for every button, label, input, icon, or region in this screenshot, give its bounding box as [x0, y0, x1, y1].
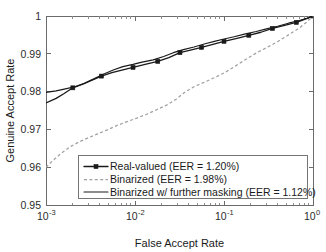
x-axis-title: False Accept Rate — [135, 237, 224, 249]
x-tick-exponent: -3 — [49, 208, 56, 217]
roc-chart-figure: 10-310-210-11000.950.960.970.980.991Fals… — [0, 0, 326, 252]
y-tick-label: 1 — [35, 10, 41, 22]
x-tick-base: 10 — [126, 210, 138, 222]
y-tick-label: 0.97 — [21, 123, 42, 135]
series-line-1 — [46, 16, 313, 167]
x-tick-label: 10-1 — [215, 208, 234, 222]
chart-canvas: 10-310-210-11000.950.960.970.980.991Fals… — [0, 0, 326, 252]
legend-label: Real-valued (EER = 1.20%) — [110, 160, 239, 172]
x-tick-label: 10-2 — [126, 208, 145, 222]
legend: Real-valued (EER = 1.20%)Binarized (EER … — [79, 156, 316, 199]
x-tick-exponent: -2 — [138, 208, 145, 217]
legend-label: Binarized w/ further masking (EER = 1.12… — [110, 186, 316, 198]
series-group — [46, 14, 315, 167]
x-tick-base: 10 — [215, 210, 227, 222]
legend-swatch-marker — [94, 165, 98, 169]
x-tick-label: 100 — [304, 208, 320, 222]
y-tick-label: 0.98 — [21, 85, 42, 97]
x-tick-base: 10 — [304, 210, 316, 222]
y-tick-label: 0.96 — [21, 161, 42, 173]
legend-label: Binarized (EER = 1.98%) — [110, 173, 227, 185]
series-marker-square — [200, 45, 204, 49]
series-marker-square — [131, 65, 135, 69]
series-marker-square — [156, 59, 160, 63]
y-tick-label: 0.95 — [21, 199, 42, 211]
x-tick-base: 10 — [37, 210, 49, 222]
x-tick-exponent: 0 — [316, 208, 320, 217]
x-tick-exponent: -1 — [227, 208, 234, 217]
y-axis-title: Genuine Accept Rate — [4, 59, 16, 163]
y-tick-label: 0.99 — [21, 48, 42, 60]
